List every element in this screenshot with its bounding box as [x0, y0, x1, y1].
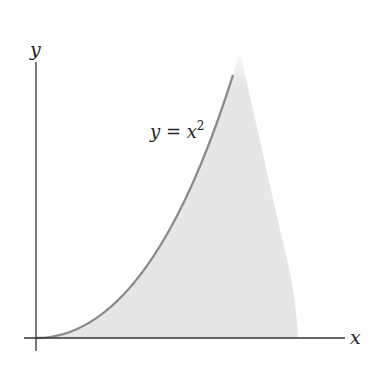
y-axis-label: y	[29, 38, 41, 60]
x-axis-label: x	[350, 326, 361, 348]
shaded-region	[36, 52, 298, 338]
diagram-canvas: y x y = x2	[0, 0, 385, 370]
curve-label-text: y = x	[149, 121, 197, 142]
curve-label: y = x2	[149, 119, 205, 142]
curve-label-exponent: 2	[197, 119, 205, 133]
